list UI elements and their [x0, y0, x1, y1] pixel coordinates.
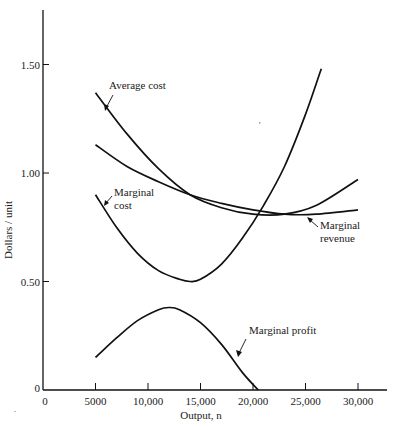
- x-tick-label: 30,000: [343, 395, 374, 407]
- stray-mark: ': [259, 121, 261, 130]
- curve-marginal-cost: [96, 69, 322, 282]
- y-tick-label: 0.50: [21, 276, 41, 288]
- y-tick-label: 1.00: [21, 167, 41, 179]
- label-average-cost: Average cost: [109, 79, 166, 91]
- label-marginal-cost-2: cost: [114, 199, 132, 211]
- x-tick-label: 10,000: [133, 395, 164, 407]
- x-tick-label: 15,000: [185, 395, 216, 407]
- x-axis-label: Output, n: [180, 409, 222, 421]
- x-tick-label: 0: [42, 395, 48, 407]
- x-tick-label: 25,000: [290, 395, 321, 407]
- stray-dot: .: [14, 405, 16, 414]
- label-marginal-revenue-2: revenue: [320, 232, 355, 244]
- label-marginal-revenue-1: Marginal: [320, 219, 360, 231]
- arrowhead-marginal-profit: [236, 350, 242, 357]
- annotations: Average cost Marginal cost Marginal reve…: [104, 79, 360, 357]
- label-marginal-cost-1: Marginal: [114, 186, 154, 198]
- x-ticks: 0500010,00015,00020,00025,00030,000: [42, 383, 373, 407]
- y-tick-label: 1.50: [21, 59, 41, 71]
- curve-marginal-profit: [96, 307, 259, 390]
- arrow-marginal-profit: [239, 339, 246, 353]
- y-tick-label: 0: [35, 382, 41, 394]
- y-ticks: 00.501.001.50: [21, 59, 49, 395]
- label-marginal-profit: Marginal profit: [249, 324, 316, 336]
- x-tick-label: 5000: [85, 395, 108, 407]
- x-tick-label: 20,000: [238, 395, 269, 407]
- y-axis-label: Dollars / unit: [2, 201, 14, 259]
- axes: [43, 10, 387, 390]
- chart: 00.501.001.50 0500010,00015,00020,00025,…: [0, 0, 395, 430]
- curves: [96, 69, 359, 390]
